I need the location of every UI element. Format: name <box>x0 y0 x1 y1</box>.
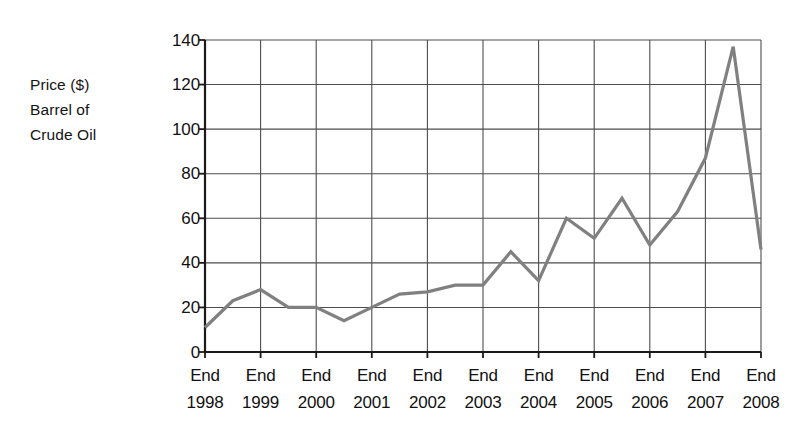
x-tick-label: End2002 <box>399 362 455 416</box>
y-axis-tick-labels: 020406080100120140 <box>148 40 200 352</box>
crude-oil-price-chart: Price ($) Barrel of Crude Oil 0204060801… <box>0 0 789 436</box>
x-tick-label-line-1: End <box>344 362 400 389</box>
x-tick-label: End2005 <box>566 362 622 416</box>
x-tick-label-line-2: 2003 <box>455 389 511 416</box>
y-tick-label: 120 <box>154 76 200 93</box>
x-tick-label-line-2: 2007 <box>677 389 733 416</box>
x-tick-label-line-2: 2006 <box>622 389 678 416</box>
x-tick-label: End1999 <box>233 362 289 416</box>
axis-tick-marks <box>199 40 761 358</box>
x-axis-tick-labels: End1998End1999End2000End2001End2002End20… <box>205 362 761 432</box>
x-tick-label-line-2: 2001 <box>344 389 400 416</box>
x-tick-label-line-1: End <box>233 362 289 389</box>
x-tick-label-line-1: End <box>177 362 233 389</box>
y-tick-label: 140 <box>154 32 200 49</box>
x-tick-label-line-2: 2008 <box>733 389 789 416</box>
x-tick-label: End2007 <box>677 362 733 416</box>
x-tick-label-line-1: End <box>455 362 511 389</box>
x-tick-label-line-2: 2002 <box>399 389 455 416</box>
x-tick-label-line-2: 2005 <box>566 389 622 416</box>
x-tick-label-line-1: End <box>733 362 789 389</box>
y-tick-label: 100 <box>154 121 200 138</box>
x-tick-label-line-1: End <box>677 362 733 389</box>
y-tick-label: 0 <box>154 344 200 361</box>
x-tick-label-line-1: End <box>566 362 622 389</box>
x-tick-label-line-1: End <box>622 362 678 389</box>
x-tick-label-line-1: End <box>511 362 567 389</box>
y-tick-label: 60 <box>154 210 200 227</box>
x-tick-label-line-2: 2004 <box>511 389 567 416</box>
x-tick-label-line-2: 1998 <box>177 389 233 416</box>
y-tick-label: 80 <box>154 165 200 182</box>
x-tick-label-line-1: End <box>399 362 455 389</box>
x-tick-label: End2000 <box>288 362 344 416</box>
y-tick-label: 20 <box>154 299 200 316</box>
y-tick-label: 40 <box>154 254 200 271</box>
plot-svg <box>205 40 761 352</box>
x-tick-label: End1998 <box>177 362 233 416</box>
x-tick-label: End2006 <box>622 362 678 416</box>
x-tick-label: End2008 <box>733 362 789 416</box>
x-tick-label-line-1: End <box>288 362 344 389</box>
x-tick-label: End2001 <box>344 362 400 416</box>
x-tick-label: End2004 <box>511 362 567 416</box>
plot-area <box>205 40 761 352</box>
x-tick-label-line-2: 2000 <box>288 389 344 416</box>
x-tick-label: End2003 <box>455 362 511 416</box>
x-tick-label-line-2: 1999 <box>233 389 289 416</box>
